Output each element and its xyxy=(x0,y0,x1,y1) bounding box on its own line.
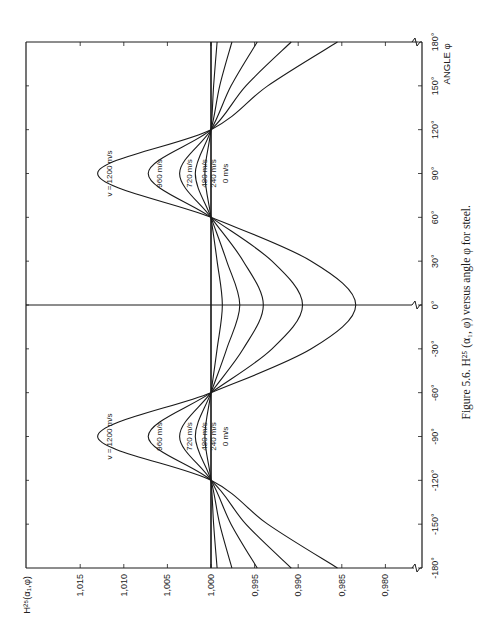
curve-label: 240 m/s xyxy=(209,422,218,450)
value-axis-title: H²⁵(α₁,φ) xyxy=(21,576,32,614)
value-tick-label: 0,980 xyxy=(380,574,390,597)
angle-tick-label: -180° xyxy=(430,557,440,579)
figure-caption: Figure 5.6. H²⁵ (α₁, φ) versus angle φ f… xyxy=(460,205,473,420)
curve-label: 0 m/s xyxy=(221,427,230,447)
value-tick-label: 1,010 xyxy=(119,574,129,597)
value-tick-label: 0,990 xyxy=(293,574,303,597)
angle-tick-label: 0° xyxy=(430,300,440,309)
value-tick-label: 0,985 xyxy=(337,574,347,597)
angle-tick-label: -60° xyxy=(430,384,440,401)
angle-tick-label: 120° xyxy=(430,120,440,139)
angle-tick-label: -150° xyxy=(430,513,440,535)
angle-tick-label: 90° xyxy=(430,166,440,180)
curve-label: 480 m/s xyxy=(200,422,209,450)
plot-frame xyxy=(26,38,422,572)
curve-label: v = 1200 m/s xyxy=(105,150,114,196)
value-tick-label: 1,015 xyxy=(75,574,85,597)
curve-label: 0 m/s xyxy=(221,164,230,184)
angle-tick-label: -30° xyxy=(430,340,440,357)
curve-label: 720 m/s xyxy=(185,422,194,450)
curve-label: 960 m/s xyxy=(155,159,164,187)
curve-label: 240 m/s xyxy=(209,159,218,187)
value-tick-label: 1,005 xyxy=(162,574,172,597)
curve-label: v = 1200 m/s xyxy=(105,413,114,459)
angle-tick-label: -90° xyxy=(430,428,440,445)
angle-tick-label: -120° xyxy=(430,469,440,491)
angle-axis-title: ANGLE φ xyxy=(441,43,452,84)
angle-tick-label: 60° xyxy=(430,210,440,224)
curve-label: 720 m/s xyxy=(185,159,194,187)
chart: 1,0151,0101,0051,0000,9950,9900,9850,980… xyxy=(0,0,480,629)
angle-tick-label: 150° xyxy=(430,76,440,95)
value-tick-label: 0,995 xyxy=(250,574,260,597)
labels: 1,0151,0101,0051,0000,9950,9900,9850,980… xyxy=(21,32,473,614)
angle-tick-label: 30° xyxy=(430,254,440,268)
value-tick-label: 1,000 xyxy=(206,574,216,597)
curve-label: 960 m/s xyxy=(155,422,164,450)
curve-label: 480 m/s xyxy=(200,159,209,187)
angle-tick-label: 180° xyxy=(430,32,440,51)
